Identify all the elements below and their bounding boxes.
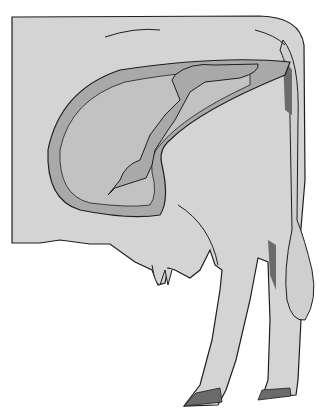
cow-illustration	[0, 0, 329, 418]
rear-hoof	[258, 388, 291, 400]
